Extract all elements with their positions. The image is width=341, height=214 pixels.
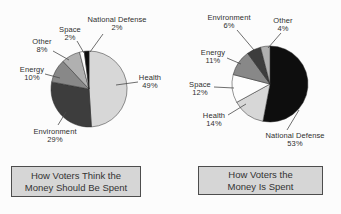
pie-1-leader-other bbox=[268, 33, 281, 48]
pie-1-label-health: Health14% bbox=[203, 112, 225, 128]
slice-label-percent: 8% bbox=[32, 46, 51, 54]
right-caption-line-2: Money Is Spent bbox=[227, 181, 293, 193]
pie-0-label-space: Space2% bbox=[59, 26, 81, 42]
pie-1-label-energy: Energy11% bbox=[201, 49, 225, 65]
left-caption-line-1: How Voters Think the bbox=[31, 170, 121, 182]
pie-charts-figure: Health49%Environment29%Energy10%Other8%S… bbox=[0, 0, 341, 214]
pie-1-leader-environment bbox=[237, 30, 254, 50]
slice-label-percent: 11% bbox=[201, 57, 225, 65]
pie-0-label-other: Other8% bbox=[32, 38, 51, 54]
pie-0-label-environment: Environment29% bbox=[33, 128, 76, 144]
pie-1-leader-space bbox=[214, 87, 234, 88]
pie-0-leader-national-defense bbox=[90, 34, 103, 52]
slice-label-percent: 2% bbox=[59, 34, 81, 42]
pie-1-label-space: Space12% bbox=[189, 81, 211, 97]
slice-label-percent: 2% bbox=[87, 24, 146, 32]
pie-0-label-national-defense: National Defense2% bbox=[87, 16, 146, 32]
right-chart-caption: How Voters the Money Is Spent bbox=[198, 166, 323, 195]
slice-label-percent: 12% bbox=[189, 89, 211, 97]
pie-0-leader-other bbox=[53, 51, 69, 60]
pie-1-leader-energy bbox=[227, 58, 241, 64]
left-caption-line-2: Money Should Be Spent bbox=[25, 182, 127, 194]
slice-label-percent: 29% bbox=[33, 136, 76, 144]
slice-label-percent: 53% bbox=[265, 140, 324, 148]
pie-0-slice-health bbox=[89, 51, 127, 127]
pie-1-label-environment: Environment6% bbox=[207, 14, 250, 30]
pie-1-label-national-defense: National Defense53% bbox=[265, 132, 324, 148]
slice-label-percent: 10% bbox=[20, 74, 44, 82]
pie-0-label-health: Health49% bbox=[139, 74, 161, 90]
slice-label-percent: 49% bbox=[139, 82, 161, 90]
left-chart-caption: How Voters Think the Money Should Be Spe… bbox=[11, 166, 141, 197]
right-caption-line-1: How Voters the bbox=[228, 169, 292, 181]
pie-0-leader-space bbox=[77, 41, 84, 53]
pie-0-slice-environment bbox=[51, 82, 91, 127]
pie-1-label-other: Other4% bbox=[273, 17, 292, 33]
slice-label-percent: 14% bbox=[203, 120, 225, 128]
slice-label-percent: 6% bbox=[207, 22, 250, 30]
slice-label-percent: 4% bbox=[273, 25, 292, 33]
pie-0-label-energy: Energy10% bbox=[20, 66, 44, 82]
